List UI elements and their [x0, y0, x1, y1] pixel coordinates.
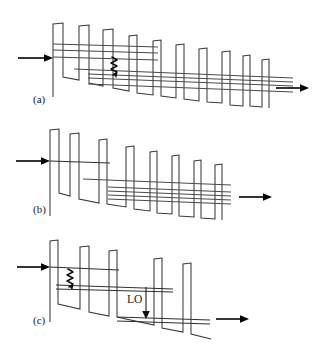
panel-b: (b): [0, 117, 312, 229]
panel-a-upper-subbands: [53, 44, 158, 60]
panel-b-diagram: (b): [0, 117, 312, 229]
panel-c-input-electron-arrow: [17, 263, 50, 271]
panel-b-output-electron-arrow: [239, 193, 272, 201]
panel-c-diagram: LO (c): [0, 229, 312, 350]
panel-c-label: (c): [33, 314, 46, 327]
panel-a-label: (a): [33, 93, 46, 106]
panel-c-output-electron-arrow: [216, 315, 249, 323]
panel-b-conduction-band: [50, 129, 222, 220]
panel-a-input-electron-arrow: [18, 54, 53, 62]
panel-a-conduction-band: [53, 23, 269, 108]
figure-container: (a): [0, 0, 312, 350]
panel-c-lo-label: LO: [127, 293, 142, 305]
panel-c-zigzag-transition-icon: [67, 269, 74, 290]
panel-a-diagram: (a): [0, 0, 312, 117]
panel-b-label: (b): [33, 203, 46, 216]
panel-a: (a): [0, 0, 312, 117]
panel-b-input-electron-arrow: [16, 157, 50, 165]
panel-c: LO (c): [0, 229, 312, 350]
